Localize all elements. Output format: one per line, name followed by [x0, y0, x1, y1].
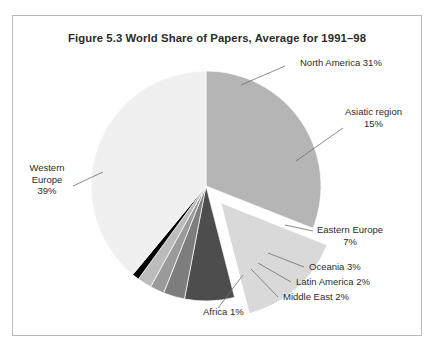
slice-label-asiatic-value: 15%	[345, 118, 402, 130]
slice-label-north-america: North America 31%	[300, 57, 382, 69]
slice-label-asiatic-name: Asiatic region	[345, 106, 402, 118]
slice-label-africa: Africa 1%	[203, 306, 244, 318]
slice-label-western-europe-line1: Western	[19, 162, 75, 174]
slice-label-asiatic-region: Asiatic region 15%	[345, 106, 402, 129]
slice-label-eastern-europe-value: 7%	[317, 236, 383, 248]
slice-label-latin-america: Latin America 2%	[296, 276, 370, 288]
slice-label-western-europe: Western Europe 39%	[19, 162, 75, 197]
slice-label-oceania: Oceania 3%	[309, 261, 361, 273]
leader-line-north-america	[241, 66, 285, 85]
figure-frame: Figure 5.3 World Share of Papers, Averag…	[12, 15, 422, 336]
slice-label-eastern-europe-name: Eastern Europe	[317, 224, 383, 236]
slice-label-western-europe-line2: Europe	[19, 174, 75, 186]
slice-label-western-europe-line3: 39%	[19, 185, 75, 197]
slice-label-eastern-europe: Eastern Europe 7%	[317, 224, 383, 247]
slice-label-middle-east: Middle East 2%	[283, 291, 349, 303]
pie-slices	[91, 71, 327, 314]
